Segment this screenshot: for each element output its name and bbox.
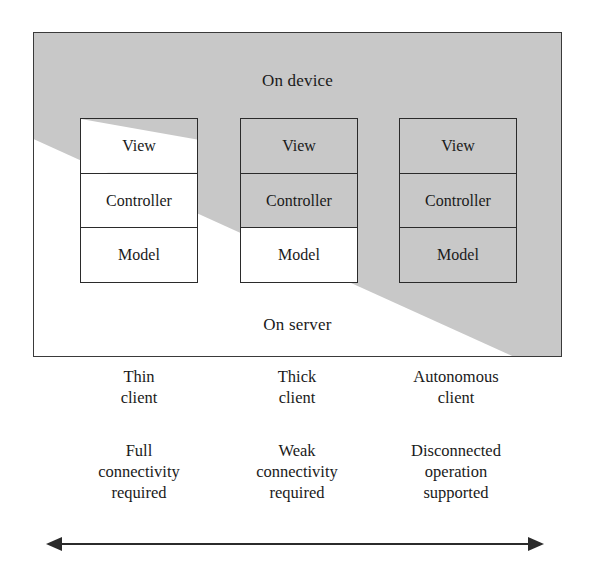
client-type-columns: Thin client Full connectivity required T… [0,366,589,516]
mvc-cell-model-thick: Model [241,228,357,282]
mvc-cell-view-autonomous: View [400,119,516,174]
mvc-cell-controller-thick: Controller [241,174,357,229]
mvc-stack-thick-client: View Controller Model [240,118,358,283]
column-connectivity-note: Disconnected operation supported [376,440,536,503]
mvc-cell-label: Model [278,247,320,263]
column-connectivity-note: Weak connectivity required [217,440,377,503]
mvc-cell-label: View [282,138,316,154]
column-thick-client: Thick client Weak connectivity required [217,366,377,504]
mvc-cell-label: View [122,138,156,154]
column-title: Thin client [59,366,219,408]
column-title: Thick client [217,366,377,408]
mvc-cell-label: Controller [425,193,491,209]
column-title: Autonomous client [376,366,536,408]
column-autonomous-client: Autonomous client Disconnected operation… [376,366,536,504]
connectivity-spectrum-arrow [40,528,550,560]
mvc-cell-label: Controller [266,193,332,209]
mvc-cell-label: View [441,138,475,154]
mvc-cell-label: Controller [106,193,172,209]
mvc-cell-view-thin: View [81,119,197,174]
mvc-stack-thin-client: View Controller Model [80,118,198,283]
architecture-frame: On device On server View Controller Mode… [33,32,562,357]
mvc-cell-label: Model [118,247,160,263]
mvc-cell-controller-autonomous: Controller [400,174,516,229]
on-device-label: On device [34,72,561,89]
mvc-stack-autonomous-client: View Controller Model [399,118,517,283]
mvc-cell-model-thin: Model [81,228,197,282]
mvc-cell-view-thick: View [241,119,357,174]
mvc-cell-label: Model [437,247,479,263]
diagram-root: On device On server View Controller Mode… [0,0,589,571]
mvc-cell-controller-thin: Controller [81,174,197,229]
column-connectivity-note: Full connectivity required [59,440,219,503]
mvc-cell-model-autonomous: Model [400,228,516,282]
column-thin-client: Thin client Full connectivity required [59,366,219,504]
on-server-label: On server [34,316,561,333]
